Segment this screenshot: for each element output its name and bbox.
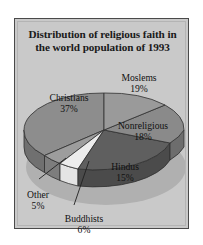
- chart-panel: Distribution of religious faith in the w…: [14, 18, 189, 229]
- pie-label-christians: Christians 37%: [31, 93, 107, 114]
- pie-label-hindus-name: Hindus: [95, 162, 155, 173]
- pie-label-christians-name: Christians: [31, 93, 107, 104]
- pie-label-hindus-value: 15%: [95, 173, 155, 184]
- pie-label-moslems-name: Moslems: [103, 73, 175, 84]
- pie-label-nonreligious: Nonreligious 18%: [99, 121, 187, 142]
- pie-label-hindus: Hindus 15%: [95, 162, 155, 183]
- pie-label-nonreligious-name: Nonreligious: [99, 121, 187, 132]
- pie-label-other-value: 5%: [16, 201, 60, 212]
- pie-label-buddhists: Buddhists 6%: [45, 214, 123, 235]
- pie-label-moslems-value: 19%: [103, 84, 175, 95]
- pie-label-other: Other 5%: [16, 190, 60, 211]
- pie-chart: Christians 37% Moslems 19% Nonreligious …: [15, 55, 190, 228]
- chart-title-line-2: the world population of 1993: [21, 41, 184, 54]
- pie-label-buddhists-value: 6%: [45, 225, 123, 236]
- chart-title: Distribution of religious faith in the w…: [21, 28, 184, 55]
- pie-label-buddhists-name: Buddhists: [45, 214, 123, 225]
- pie-label-moslems: Moslems 19%: [103, 73, 175, 94]
- figure-root: Distribution of religious faith in the w…: [0, 0, 203, 245]
- pie-label-christians-value: 37%: [31, 104, 107, 115]
- chart-title-line-1: Distribution of religious faith in: [21, 28, 184, 41]
- pie-label-nonreligious-value: 18%: [99, 132, 187, 143]
- pie-label-other-name: Other: [16, 190, 60, 201]
